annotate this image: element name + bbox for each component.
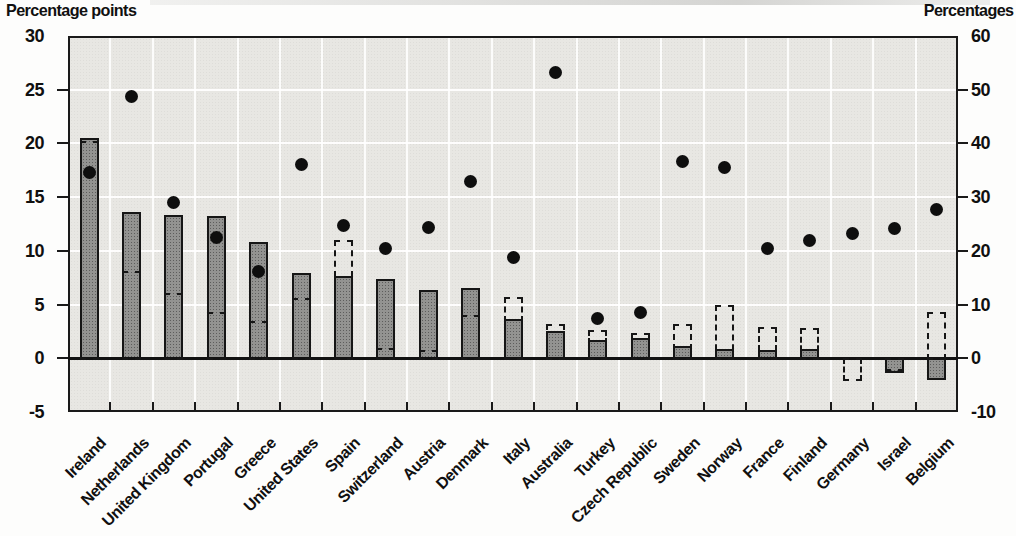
right-tick-label-50: 50 (971, 80, 1016, 100)
gridline-horizontal (70, 89, 956, 91)
left-tick-label-15: 15 (0, 187, 44, 207)
dashed-bar-norway (715, 305, 734, 361)
bottom-tick-mark (279, 402, 281, 411)
bottom-tick-mark (406, 402, 408, 411)
dashed-bar-greece (249, 321, 268, 361)
left-tick-label--5: -5 (0, 402, 44, 422)
gridline-vertical (448, 38, 450, 410)
right-tick-label-10: 10 (971, 295, 1016, 315)
gridline-vertical (660, 38, 662, 410)
dashed-bar-sweden (673, 324, 692, 360)
right-tick-mark (958, 196, 968, 198)
bottom-tick-mark (237, 402, 239, 411)
bottom-tick-mark (872, 402, 874, 411)
bottom-tick-mark (321, 402, 323, 411)
left-tick-mark (57, 304, 68, 306)
dashed-bar-israel (885, 358, 904, 371)
gridline-vertical (576, 38, 578, 410)
gridline-vertical (109, 38, 111, 410)
chart-figure: Percentage points Percentages 3025201510… (0, 0, 1016, 536)
dot-portugal (210, 231, 223, 244)
bottom-tick-mark (830, 402, 832, 411)
dashed-bar-czech-republic (631, 333, 650, 361)
dashed-bar-netherlands (122, 271, 141, 360)
gridline-vertical (237, 38, 239, 410)
gridline-vertical (533, 38, 535, 410)
bar-belgium (927, 358, 946, 379)
dot-israel (888, 222, 901, 235)
gridline-vertical (152, 38, 154, 410)
right-tick-mark (958, 304, 968, 306)
dashed-bar-austria (419, 350, 438, 361)
bottom-tick-mark (576, 402, 578, 411)
bottom-tick-mark (745, 402, 747, 411)
left-tick-mark (57, 357, 68, 359)
bottom-tick-mark (703, 402, 705, 411)
dashed-bar-germany (843, 358, 862, 380)
dot-austria (422, 221, 435, 234)
dot-norway (718, 161, 731, 174)
gridline-horizontal (70, 196, 956, 198)
dashed-bar-turkey (588, 330, 607, 360)
gridline-vertical (406, 38, 408, 410)
left-tick-mark (57, 142, 68, 144)
bottom-tick-mark (448, 402, 450, 411)
right-tick-label-20: 20 (971, 241, 1016, 261)
right-tick-mark (958, 89, 968, 91)
gridline-vertical (194, 38, 196, 410)
dot-spain (337, 219, 350, 232)
bottom-tick-mark (660, 402, 662, 411)
dashed-bar-france (758, 327, 777, 360)
left-tick-mark (57, 196, 68, 198)
right-tick-label-60: 60 (971, 26, 1016, 46)
gridline-vertical (915, 38, 917, 410)
gridline-horizontal (70, 142, 956, 144)
bottom-tick-mark (364, 402, 366, 411)
bottom-tick-mark (787, 402, 789, 411)
gridline-vertical (830, 38, 832, 410)
right-tick-label-30: 30 (971, 187, 1016, 207)
left-tick-label-0: 0 (0, 348, 44, 368)
dot-denmark (464, 175, 477, 188)
bottom-tick-mark (194, 402, 196, 411)
right-tick-label--10: -10 (971, 402, 1016, 422)
gridline-vertical (321, 38, 323, 410)
bottom-tick-mark (618, 402, 620, 411)
gridline-vertical (491, 38, 493, 410)
left-tick-label-5: 5 (0, 295, 44, 315)
dot-germany (846, 227, 859, 240)
dashed-bar-denmark (461, 315, 480, 360)
dashed-bar-spain (334, 240, 353, 360)
left-axis-title: Percentage points (6, 1, 136, 21)
dot-finland (803, 234, 816, 247)
gridline-vertical (618, 38, 620, 410)
right-axis-title: Percentages (924, 1, 1014, 21)
dashed-bar-portugal (207, 312, 226, 360)
dashed-bar-finland (800, 328, 819, 360)
gridline-vertical (364, 38, 366, 410)
left-tick-mark (57, 250, 68, 252)
gridline-vertical (872, 38, 874, 410)
dashed-bar-italy (504, 297, 523, 360)
gridline-vertical (279, 38, 281, 410)
dot-netherlands (125, 90, 138, 103)
scan-artifact (150, 0, 990, 5)
gridline-vertical (745, 38, 747, 410)
dot-greece (252, 265, 265, 278)
right-tick-mark (958, 142, 968, 144)
gridline-vertical (703, 38, 705, 410)
dashed-bar-united-states (292, 298, 311, 360)
dot-france (761, 242, 774, 255)
dot-australia (549, 66, 562, 79)
gridline-vertical (787, 38, 789, 410)
dashed-bar-united-kingdom (164, 293, 183, 361)
left-tick-label-20: 20 (0, 133, 44, 153)
bottom-tick-mark (152, 402, 154, 411)
right-tick-label-0: 0 (971, 348, 1016, 368)
dashed-bar-australia (546, 324, 565, 360)
bottom-tick-mark (915, 402, 917, 411)
right-tick-mark (958, 357, 968, 359)
dashed-bar-switzerland (376, 348, 395, 361)
right-tick-mark (958, 250, 968, 252)
left-tick-label-30: 30 (0, 26, 44, 46)
